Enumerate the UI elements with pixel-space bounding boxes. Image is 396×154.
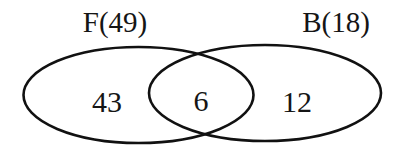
set-f-ellipse (24, 47, 254, 143)
set-f-label: F(49) (83, 6, 147, 39)
region-f-only-count: 43 (92, 85, 122, 118)
region-intersection-count: 6 (194, 84, 209, 117)
set-b-ellipse (149, 45, 381, 141)
venn-diagram: F(49) B(18) 43 6 12 (0, 0, 396, 154)
set-b-label: B(18) (302, 6, 370, 39)
region-b-only-count: 12 (282, 85, 312, 118)
